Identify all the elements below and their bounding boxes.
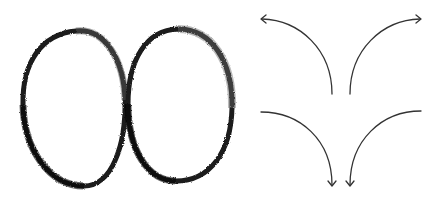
- left-ellipse-icon: [23, 31, 125, 186]
- arrow-down-left-icon: [261, 112, 336, 186]
- arrow-down-right-icon: [346, 111, 421, 186]
- illustration-svg: [0, 0, 440, 197]
- illustration-canvas: [0, 0, 440, 197]
- arrow-up-left-icon: [261, 15, 332, 94]
- right-ellipse-icon: [128, 29, 232, 181]
- arrow-up-right-icon: [350, 15, 421, 94]
